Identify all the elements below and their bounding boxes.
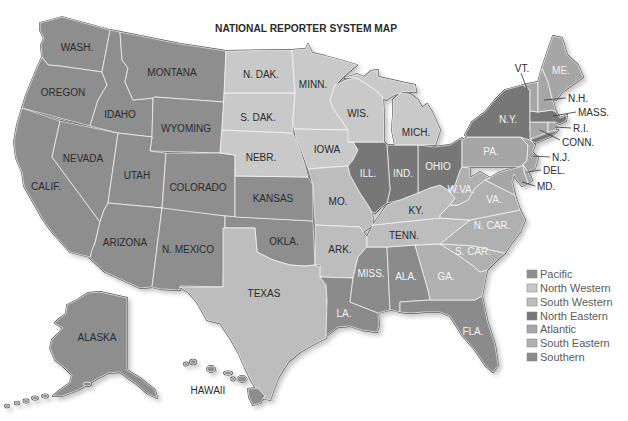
label-ohio: OHIO — [425, 161, 451, 172]
label-montana: MONTANA — [147, 67, 197, 78]
legend-label-south-western: South Western — [540, 296, 613, 308]
aleutian-island — [32, 396, 38, 399]
label-connecticut: CONN. — [562, 137, 594, 148]
legend-item-north-western: North Western — [527, 282, 611, 294]
legend-swatch-pacific — [527, 270, 537, 278]
label-south-dakota: S. DAK. — [240, 112, 276, 123]
map-body — [5, 17, 583, 407]
label-alabama: ALA. — [395, 271, 417, 282]
label-indiana: IND. — [393, 168, 413, 179]
hawaii-island-niihau — [184, 363, 188, 366]
label-minnesota: MINN. — [299, 79, 327, 90]
label-rhode-island: R.I. — [573, 123, 589, 134]
legend-label-north-eastern: North Eastern — [540, 310, 608, 322]
label-louisiana: LA. — [336, 308, 351, 319]
legend-swatch-north-western — [527, 284, 537, 292]
label-new-mexico: N. MEXICO — [162, 244, 214, 255]
legend: Pacific North Western South Western Nort… — [527, 268, 613, 363]
state-massachusetts — [530, 110, 567, 124]
aleutian-island — [24, 400, 29, 403]
label-hawaii: HAWAII — [191, 385, 226, 396]
label-georgia: GA. — [437, 271, 454, 282]
label-new-jersey: N.J. — [552, 152, 570, 163]
hawaii-island-kauai — [190, 360, 196, 365]
label-vermont: VT. — [515, 63, 529, 74]
national-reporter-map: NATIONAL REPORTER SYSTEM MAP — [0, 0, 628, 421]
label-nebraska: NEBR. — [246, 152, 277, 163]
label-oregon: OREGON — [41, 87, 85, 98]
label-kansas: KANSAS — [253, 193, 294, 204]
state-rhode-island — [548, 122, 556, 132]
legend-label-north-western: North Western — [540, 282, 611, 294]
label-arizona: ARIZONA — [103, 237, 148, 248]
label-north-carolina: N. CAR. — [474, 220, 511, 231]
label-michigan: MICH. — [402, 127, 430, 138]
label-new-york: N.Y. — [499, 114, 517, 125]
label-florida: FLA. — [462, 326, 483, 337]
label-utah: UTAH — [124, 170, 150, 181]
legend-label-atlantic: Atlantic — [540, 323, 577, 335]
legend-item-south-eastern: South Eastern — [527, 337, 610, 349]
label-massachusetts: MASS. — [578, 107, 609, 118]
label-wisconsin: WIS. — [347, 108, 369, 119]
aleutian-island — [5, 405, 9, 408]
label-texas: TEXAS — [248, 288, 281, 299]
label-pennsylvania: PA. — [483, 146, 498, 157]
legend-swatch-south-western — [527, 298, 537, 306]
label-west-virginia: W.VA. — [447, 184, 474, 195]
legend-swatch-southern — [527, 353, 537, 361]
legend-item-north-eastern: North Eastern — [527, 310, 608, 322]
legend-label-south-eastern: South Eastern — [540, 337, 610, 349]
hawaii-island-lanai — [231, 378, 235, 381]
legend-item-south-western: South Western — [527, 296, 613, 308]
label-maine: ME. — [552, 65, 570, 76]
legend-swatch-south-eastern — [527, 339, 537, 347]
aleutian-island — [42, 394, 48, 397]
legend-label-southern: Southern — [540, 351, 585, 363]
label-arkansas: ARK. — [328, 244, 351, 255]
legend-item-pacific: Pacific — [527, 268, 573, 280]
label-kentucky: KY. — [409, 205, 424, 216]
label-new-hampshire: N.H. — [568, 93, 588, 104]
label-missouri: MO. — [329, 196, 348, 207]
label-nevada: NEVADA — [63, 153, 104, 164]
alaska-island — [83, 382, 91, 386]
legend-label-pacific: Pacific — [540, 268, 573, 280]
label-iowa: IOWA — [314, 144, 341, 155]
legend-swatch-atlantic — [527, 325, 537, 333]
label-california: CALIF. — [31, 181, 61, 192]
label-delaware: DEL. — [543, 165, 565, 176]
label-mississippi: MISS. — [357, 268, 384, 279]
legend-swatch-north-eastern — [527, 312, 537, 320]
label-colorado: COLORADO — [169, 182, 226, 193]
label-tennessee: TENN. — [389, 230, 419, 241]
hawaii-island-molokai — [224, 371, 232, 374]
label-maryland: MD. — [537, 181, 555, 192]
hawaii-island-maui — [238, 376, 247, 382]
label-illinois: ILL. — [360, 168, 377, 179]
aleutian-island — [15, 402, 20, 405]
hawaii-island-oahu — [207, 366, 215, 372]
label-idaho: IDAHO — [104, 109, 136, 120]
legend-item-atlantic: Atlantic — [527, 323, 577, 335]
map-title: NATIONAL REPORTER SYSTEM MAP — [215, 23, 397, 34]
label-virginia: VA. — [486, 194, 501, 205]
label-south-carolina: S. CAR. — [455, 246, 491, 257]
label-north-dakota: N. DAK. — [243, 69, 279, 80]
label-oklahoma: OKLA. — [269, 236, 298, 247]
label-washington: WASH. — [61, 42, 93, 53]
label-alaska: ALASKA — [78, 332, 117, 343]
label-wyoming: WYOMING — [161, 123, 211, 134]
leader-line-ri — [555, 127, 571, 128]
legend-item-southern: Southern — [527, 351, 585, 363]
